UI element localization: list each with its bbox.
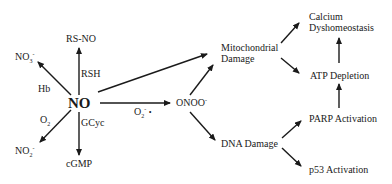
edge-label-hb: Hb	[38, 83, 50, 94]
node-mitochondrial-damage: Mitochondrial Damage	[221, 42, 278, 64]
node-parp-activation: PARP Activation	[309, 113, 377, 124]
arrow-dna-to-parp	[282, 121, 301, 138]
node-no: NO	[68, 95, 91, 111]
node-no2: NO2-	[15, 145, 34, 156]
arrow-onoo-to-mito	[190, 65, 213, 95]
node-p53-activation: p53 Activation	[309, 164, 368, 175]
arrow-mito-to-atp	[281, 58, 299, 73]
arrow-mito-to-calcium	[281, 23, 299, 43]
arrow-no-to-mito	[98, 54, 207, 92]
node-no3: NO3-	[15, 51, 34, 62]
node-atp-depletion: ATP Depletion	[310, 70, 369, 81]
edge-label-o2: O2	[40, 114, 50, 125]
edge-label-superoxide: O2- •	[134, 106, 152, 118]
node-onoo: ONOO-	[176, 97, 207, 108]
node-calcium-dyshomeostasis: Calcium Dyshomeostasis	[309, 11, 374, 33]
edge-label-rsh: RSH	[81, 68, 100, 79]
arrow-dna-to-p53	[282, 148, 301, 166]
edge-label-gcyc: GCyc	[81, 117, 104, 128]
node-rsno: RS-NO	[66, 33, 96, 44]
node-dna-damage: DNA Damage	[221, 138, 278, 149]
node-cgmp: cGMP	[66, 158, 92, 169]
arrow-onoo-to-dna	[190, 112, 215, 140]
